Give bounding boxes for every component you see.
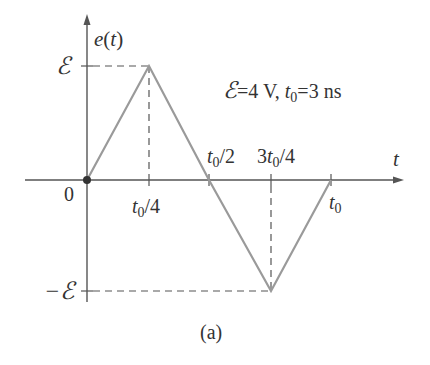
- waveform-diagram: e(t) t 0 ℰ −ℰ t0/4 t0/2 3t0/4 t0 ℰ=4 V, …: [0, 0, 430, 365]
- y-axis-arrow-icon: [84, 14, 91, 25]
- figure-caption: (a): [200, 321, 222, 344]
- y-axis-label: e(t): [94, 27, 123, 51]
- x-tick-label-3t0-4: 3t0/4: [257, 145, 295, 170]
- x-tick-label-t0-2: t0/2: [207, 145, 235, 170]
- x-axis-arrow-icon: [393, 177, 404, 184]
- origin-dot: [83, 176, 91, 184]
- y-tick-label-E: ℰ: [56, 53, 73, 79]
- y-tick-label-minus-E: −ℰ: [44, 278, 77, 304]
- parameters-annotation: ℰ=4 V, t0=3 ns: [223, 78, 342, 105]
- x-axis-label: t: [393, 147, 400, 171]
- x-tick-label-t0: t0: [329, 191, 342, 216]
- origin-label: 0: [64, 183, 74, 205]
- x-tick-label-t0-4: t0/4: [132, 195, 160, 220]
